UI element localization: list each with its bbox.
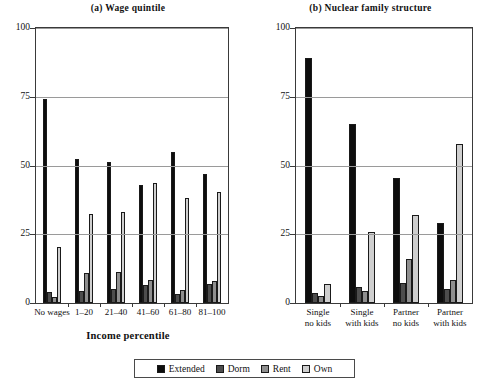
bar-own <box>185 198 190 303</box>
bar-extended <box>349 124 355 303</box>
gridline-75 <box>296 97 472 98</box>
bar-extended <box>305 58 311 303</box>
panel-a-title: (a) Wage quintile <box>28 3 228 13</box>
y-tick-mark-25 <box>290 234 295 235</box>
bar-own <box>324 284 330 303</box>
panel-a-plot-area <box>35 27 229 304</box>
bar-extended <box>107 162 112 303</box>
x-tick-label: Partnerwith kids <box>422 307 478 328</box>
bar-own <box>153 183 158 303</box>
figure-root: (a) Wage quintile (b) Nuclear family str… <box>0 0 478 387</box>
bar-extended <box>43 99 48 303</box>
bar-own <box>89 214 94 303</box>
y-tick-mark-100 <box>30 28 35 29</box>
legend-item-own: Own <box>302 364 332 374</box>
y-tick-label-75: 75 <box>264 92 290 101</box>
y-tick-mark-75 <box>290 97 295 98</box>
bar-own <box>57 247 62 303</box>
legend-item-rent: Rent <box>261 364 291 374</box>
y-tick-mark-100 <box>290 28 295 29</box>
bar-extended <box>171 152 176 303</box>
y-tick-label-75: 75 <box>4 92 30 101</box>
y-tick-mark-0 <box>290 303 295 304</box>
legend-label-extended: Extended <box>169 364 205 374</box>
y-tick-mark-50 <box>290 166 295 167</box>
legend-item-dorm: Dorm <box>216 364 250 374</box>
gridline-100 <box>296 28 472 29</box>
y-tick-label-25: 25 <box>4 229 30 238</box>
legend-swatch-rent <box>261 365 269 373</box>
legend-label-dorm: Dorm <box>228 364 250 374</box>
y-tick-label-25: 25 <box>264 229 290 238</box>
legend-item-extended: Extended <box>157 364 205 374</box>
gridline-25 <box>36 234 228 235</box>
gridline-50 <box>36 166 228 167</box>
y-tick-mark-25 <box>30 234 35 235</box>
legend: ExtendedDormRentOwn <box>134 359 355 378</box>
legend-label-rent: Rent <box>273 364 291 374</box>
bar-own <box>368 232 374 304</box>
bar-own <box>121 212 126 303</box>
bar-extended <box>75 159 80 303</box>
gridline-25 <box>296 234 472 235</box>
y-tick-label-0: 0 <box>4 298 30 307</box>
legend-label-own: Own <box>314 364 332 374</box>
legend-swatch-dorm <box>216 365 224 373</box>
x-tick-label: 81–100 <box>190 307 234 318</box>
y-tick-label-50: 50 <box>4 161 30 170</box>
bar-own <box>456 144 462 304</box>
panel-b-plot-area <box>295 27 473 304</box>
bar-own <box>217 192 222 303</box>
y-tick-mark-75 <box>30 97 35 98</box>
gridline-50 <box>296 166 472 167</box>
legend-swatch-own <box>302 365 310 373</box>
legend-swatch-extended <box>157 365 165 373</box>
panel-b-title: (b) Nuclear family structure <box>268 3 473 13</box>
gridline-75 <box>36 97 228 98</box>
y-tick-label-0: 0 <box>264 298 290 307</box>
y-tick-mark-0 <box>30 303 35 304</box>
x-axis-title: Income percentile <box>28 330 228 341</box>
y-tick-mark-50 <box>30 166 35 167</box>
gridline-100 <box>36 28 228 29</box>
y-tick-label-100: 100 <box>264 23 290 32</box>
y-tick-label-100: 100 <box>4 23 30 32</box>
bar-own <box>412 215 418 303</box>
y-tick-label-50: 50 <box>264 161 290 170</box>
